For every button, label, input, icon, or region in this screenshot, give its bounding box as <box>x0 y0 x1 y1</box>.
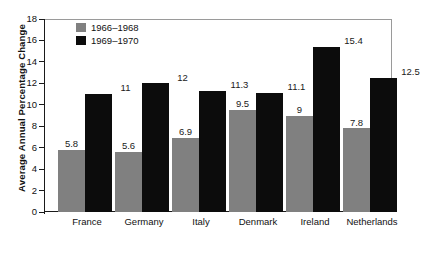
bar-1969-1970-germany: 12 <box>142 83 169 212</box>
x-axis-labels: France Germany Italy Denmark Ireland Net… <box>44 215 392 233</box>
bar-value-label: 12.5 <box>388 66 424 77</box>
legend-swatch-icon <box>76 23 86 32</box>
y-tick: 8 <box>0 120 44 132</box>
bar-group-germany: 5.6 12 <box>115 19 173 212</box>
y-tick: 0 <box>0 206 44 218</box>
legend-item-1966-1968: 1966–1968 <box>76 22 139 33</box>
bar-1966-1968-italy: 6.9 <box>172 138 199 212</box>
bar-1966-1968-denmark: 9.5 <box>229 110 256 212</box>
bar-1969-1970-ireland: 15.4 <box>313 47 340 212</box>
y-tick-label: 8 <box>7 120 37 132</box>
bar-group-italy: 6.9 11.3 <box>172 19 230 212</box>
legend-swatch-icon <box>76 36 86 45</box>
y-tick: 14 <box>0 56 44 68</box>
bar-1969-1970-france: 11 <box>85 94 112 212</box>
y-tick-label: 12 <box>7 77 37 89</box>
y-axis-ticks: 18 16 14 12 10 8 6 4 <box>0 19 44 212</box>
bar-1969-1970-netherlands: 12.5 <box>370 78 397 212</box>
bar-group-netherlands: 7.8 12.5 <box>343 19 401 212</box>
bar-1966-1968-ireland: 9 <box>286 116 313 213</box>
legend-label: 1966–1968 <box>91 22 139 33</box>
bar-1966-1968-france: 5.8 <box>58 150 85 212</box>
x-label-netherlands: Netherlands <box>327 215 417 229</box>
y-tick: 4 <box>0 163 44 175</box>
bars-layer: 5.8 11 5.6 12 6.9 11.3 9.5 <box>44 19 392 212</box>
y-tick: 12 <box>0 77 44 89</box>
y-tick: 2 <box>0 185 44 197</box>
y-tick: 16 <box>0 34 44 46</box>
y-tick-label: 16 <box>7 34 37 46</box>
y-tick: 6 <box>0 142 44 154</box>
bar-1966-1968-netherlands: 7.8 <box>343 128 370 212</box>
y-tick-label: 18 <box>7 13 37 25</box>
y-tick-label: 4 <box>7 163 37 175</box>
legend-label: 1969–1970 <box>91 35 139 46</box>
legend-item-1969-1970: 1969–1970 <box>76 35 139 46</box>
y-tick-label: 2 <box>7 185 37 197</box>
y-tick: 18 <box>0 13 44 25</box>
bar-group-france: 5.8 11 <box>58 19 116 212</box>
y-tick: 10 <box>0 99 44 111</box>
bar-group-ireland: 9 15.4 <box>286 19 344 212</box>
y-tick-label: 6 <box>7 142 37 154</box>
y-tick-label: 10 <box>7 99 37 111</box>
bar-1966-1968-germany: 5.6 <box>115 152 142 212</box>
y-tick-label: 14 <box>7 56 37 68</box>
legend: 1966–1968 1969–1970 <box>76 22 139 46</box>
y-tick-label: 0 <box>7 206 37 218</box>
bar-group-denmark: 9.5 11.1 <box>229 19 287 212</box>
